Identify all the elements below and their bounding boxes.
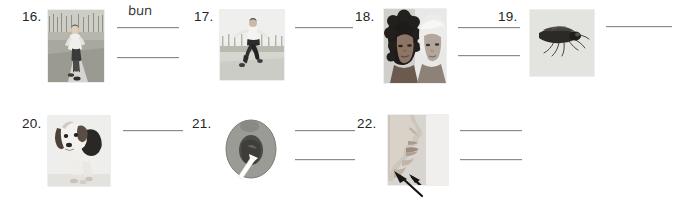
answer-line[interactable] <box>295 27 353 28</box>
answer-line[interactable] <box>460 159 522 160</box>
picture-beagle-dog <box>48 116 110 186</box>
answer-text-16-1: bun <box>128 3 153 18</box>
item-number-19: 19. <box>498 9 517 24</box>
item-number-17: 17. <box>194 9 213 24</box>
item-number-22: 22. <box>357 116 376 131</box>
answer-line[interactable] <box>117 27 179 28</box>
worksheet-page: 16. <box>0 0 697 208</box>
worksheet-item-22: 22. <box>357 116 527 196</box>
answer-line[interactable] <box>123 130 183 131</box>
item-number-16: 16. <box>22 9 41 24</box>
worksheet-item-20: 20. <box>22 116 182 188</box>
item-number-20: 20. <box>22 116 41 131</box>
answer-line[interactable] <box>606 26 672 27</box>
answer-line[interactable] <box>295 130 355 131</box>
picture-insect-fly <box>530 10 594 76</box>
picture-runner-on-road <box>48 10 104 82</box>
answer-line[interactable] <box>117 57 179 58</box>
worksheet-item-16: 16. <box>22 9 182 84</box>
picture-man-jumping <box>220 10 284 80</box>
worksheet-item-21: 21. <box>192 116 357 188</box>
worksheet-item-19: 19. <box>498 9 683 84</box>
picture-two-heads-of-hair <box>384 9 446 83</box>
picture-peach-cross-section-with-arrow <box>220 115 282 185</box>
item-number-18: 18. <box>355 9 374 24</box>
worksheet-item-17: 17. <box>194 9 354 84</box>
item-number-21: 21. <box>192 116 211 131</box>
answer-line[interactable] <box>460 130 522 131</box>
picture-face-profile-with-arrow <box>388 115 448 185</box>
answer-line[interactable] <box>295 159 355 160</box>
